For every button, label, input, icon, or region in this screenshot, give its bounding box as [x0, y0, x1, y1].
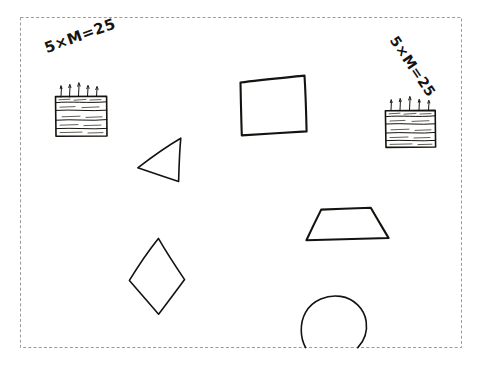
- page-border: [21, 18, 462, 348]
- worksheet-page: 5×M=25 5×M=25: [0, 0, 481, 369]
